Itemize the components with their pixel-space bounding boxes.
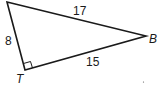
- vertex-label-b: B: [149, 32, 157, 46]
- stray-dot: [143, 81, 144, 82]
- bottom-leg-label: 15: [86, 55, 100, 69]
- left-leg-label: 8: [5, 34, 12, 48]
- hypotenuse-label: 17: [73, 4, 87, 18]
- vertex-label-t: T: [16, 72, 25, 86]
- triangle-diagram: 17 8 15 B T: [0, 0, 161, 87]
